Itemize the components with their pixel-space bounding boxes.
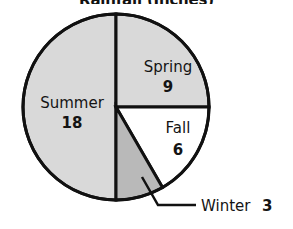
slice-label-summer: Summer xyxy=(40,94,104,112)
slice-label-fall: Fall xyxy=(166,119,191,137)
pie-chart-svg: Spring 9 Summer 18 Fall 6 Winter 3 xyxy=(0,0,293,229)
slice-value-spring: 9 xyxy=(163,78,173,96)
slice-value-summer: 18 xyxy=(62,114,83,132)
callout-value-winter: 3 xyxy=(262,197,272,215)
slice-label-spring: Spring xyxy=(144,58,192,76)
slice-value-fall: 6 xyxy=(173,141,183,159)
pie-chart-figure: Rainfall (Inches) Spring 9 Summer 18 Fal… xyxy=(0,0,293,229)
callout-label-winter: Winter xyxy=(201,197,251,215)
